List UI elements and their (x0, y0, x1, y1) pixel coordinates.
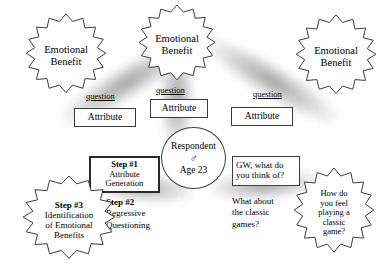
attribute-right-label: Attribute (245, 111, 279, 121)
follow-up-line3: games? (232, 219, 274, 230)
question-label-left[interactable]: question (86, 91, 115, 101)
benefit-center-line2: Benefit (155, 45, 199, 57)
step3-line1: Identification (45, 210, 93, 220)
step3-line3: Benefits (45, 230, 93, 240)
attribute-box-center[interactable]: Attribute (150, 99, 208, 118)
emotional-benefit-right[interactable]: Emotional Benefit (290, 15, 382, 99)
respondent-age: Age 23 (180, 165, 208, 176)
question-label-right[interactable]: question (253, 89, 282, 99)
step3-number: Step #3 (45, 200, 93, 210)
attribute-left-label: Attribute (88, 112, 122, 122)
probe-line5: game? (318, 227, 349, 237)
step3-star[interactable]: Step #3 Identification of Emotional Bene… (16, 176, 122, 264)
benefit-right-line1: Emotional (314, 45, 358, 57)
benefit-right-line2: Benefit (314, 57, 358, 69)
benefit-left-line1: Emotional (44, 44, 88, 56)
benefit-center-line1: Emotional (155, 33, 199, 45)
emotional-benefit-center[interactable]: Emotional Benefit (133, 5, 221, 85)
follow-up-question: What about the classic games? (232, 196, 274, 230)
attribute-center-label: Attribute (162, 103, 196, 113)
prompt-line2: you think of? (236, 171, 284, 181)
respondent-label: Respondent (171, 141, 216, 152)
emotional-benefit-left[interactable]: Emotional Benefit (20, 14, 112, 98)
attribute-box-left[interactable]: Attribute (74, 108, 136, 127)
diagram-canvas: Emotional Benefit Emotional Benefit Emot… (0, 0, 389, 269)
step3-line2: of Emotional (45, 220, 93, 230)
attribute-box-right[interactable]: Attribute (231, 107, 293, 126)
emotional-probe-star[interactable]: How do you feel playing a classic game? (288, 168, 380, 258)
male-symbol-icon: ♂ (189, 153, 197, 164)
follow-up-line1: What about (232, 196, 274, 207)
question-label-center[interactable]: question (156, 85, 185, 95)
benefit-left-line2: Benefit (44, 56, 88, 68)
follow-up-line2: the classic (232, 207, 274, 218)
respondent-node[interactable]: Respondent ♂ Age 23 (161, 127, 226, 189)
